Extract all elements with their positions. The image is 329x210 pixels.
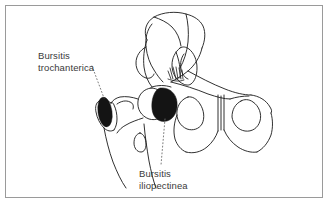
label-bursitis-iliopectinea: Bursitis iliopectinea — [139, 168, 188, 191]
label-bursitis-trochanterica: Bursitis trochanterica — [38, 50, 94, 73]
label-trochanterica-line1: Bursitis — [38, 50, 94, 62]
label-iliopectinea-line1: Bursitis — [139, 168, 188, 180]
figure-root: Bursitis trochanterica Bursitis iliopect… — [0, 0, 329, 210]
label-iliopectinea-line2: iliopectinea — [139, 180, 188, 192]
label-trochanterica-line2: trochanterica — [38, 62, 94, 74]
